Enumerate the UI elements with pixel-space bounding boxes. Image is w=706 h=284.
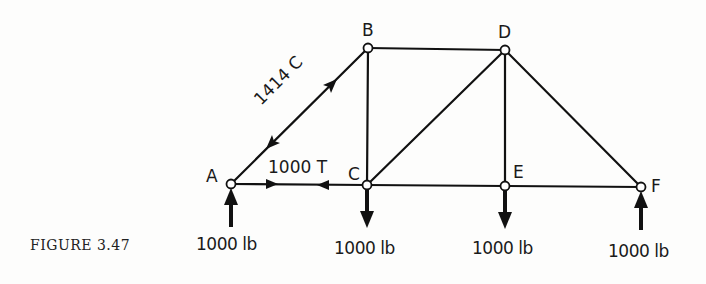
load-label-e: 1000 lb bbox=[472, 240, 533, 257]
node-label-d: D bbox=[498, 24, 511, 41]
arrow-up-icon bbox=[224, 188, 238, 205]
node-label-e: E bbox=[513, 164, 524, 181]
joint-f bbox=[637, 183, 646, 192]
member-ef bbox=[505, 186, 641, 187]
arrow-down-icon bbox=[498, 212, 512, 229]
joint-b bbox=[364, 44, 373, 53]
node-label-c: C bbox=[348, 166, 360, 183]
member-ac bbox=[231, 184, 367, 185]
member-ce bbox=[367, 185, 505, 186]
joint-c bbox=[363, 181, 372, 190]
arrow-down-icon bbox=[360, 211, 374, 228]
member-bd bbox=[368, 48, 505, 50]
node-label-a: A bbox=[206, 168, 218, 185]
load-label-c: 1000 lb bbox=[334, 240, 395, 257]
member-df bbox=[505, 50, 641, 187]
arrow-icon bbox=[317, 180, 329, 190]
arrow-up-icon bbox=[634, 191, 648, 208]
load-label-f: 1000 lb bbox=[608, 243, 669, 260]
joint-a bbox=[227, 180, 236, 189]
load-label-a: 1000 lb bbox=[196, 236, 257, 253]
arrow-icon bbox=[266, 179, 278, 189]
figure-caption: FIGURE 3.47 bbox=[30, 237, 130, 253]
member-force-label-ac: 1000 T bbox=[268, 159, 327, 176]
node-label-f: F bbox=[651, 178, 661, 195]
joint-d bbox=[501, 46, 510, 55]
node-label-b: B bbox=[362, 22, 374, 39]
load-arrows bbox=[224, 188, 648, 230]
member-bc bbox=[367, 48, 368, 185]
joint-e bbox=[501, 182, 510, 191]
member-cd bbox=[367, 50, 505, 185]
